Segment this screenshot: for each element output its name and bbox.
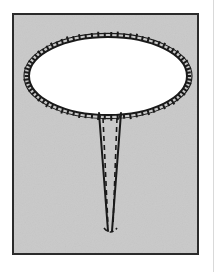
stalk-attachment-right [120, 113, 121, 117]
stalk-attachment-left [99, 113, 100, 117]
figure-drawing [0, 0, 220, 272]
figure-root: Disc-and-stalk line drawing Scientific l… [0, 0, 220, 272]
cap-face [29, 37, 187, 115]
